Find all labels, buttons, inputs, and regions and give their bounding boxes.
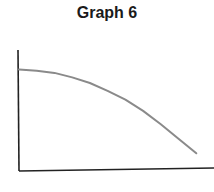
chart-plot-area (0, 0, 214, 192)
data-curve (19, 70, 196, 154)
x-axis (19, 168, 214, 171)
y-axis (18, 50, 19, 171)
